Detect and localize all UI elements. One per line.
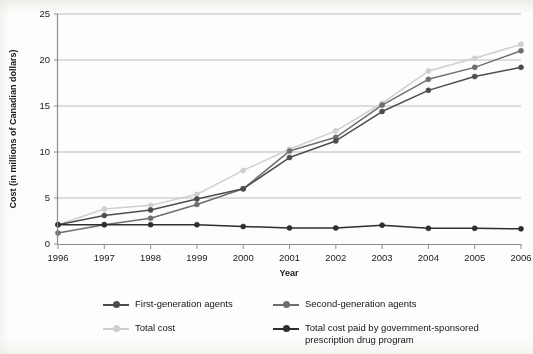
data-point <box>472 65 477 70</box>
data-point <box>241 224 246 229</box>
data-point <box>426 226 431 231</box>
data-point <box>426 88 431 93</box>
data-point <box>148 203 153 208</box>
y-tick-label: 20 <box>39 54 50 65</box>
data-point <box>194 222 199 227</box>
chart-figure: 0510152025 19961997199819992000200120022… <box>0 0 533 354</box>
data-point <box>333 128 338 133</box>
data-point <box>194 192 199 197</box>
y-tick-label: 5 <box>45 192 50 203</box>
x-tick-label: 1996 <box>47 252 68 263</box>
legend-item[interactable]: Total cost paid by government-sponsored … <box>273 322 479 345</box>
data-point <box>287 225 292 230</box>
x-tick-label: 2004 <box>418 252 439 263</box>
data-point <box>426 77 431 82</box>
data-point <box>380 103 385 108</box>
x-tick-label: 1999 <box>186 252 207 263</box>
data-point <box>102 222 107 227</box>
data-point <box>102 207 107 212</box>
data-point <box>472 56 477 61</box>
y-tick-label: 25 <box>39 8 50 19</box>
legend-label: Total cost <box>135 322 175 334</box>
y-tick-label: 10 <box>39 146 50 157</box>
data-point <box>519 42 524 47</box>
y-axis-title: Cost (in millions of Canadian dollars) <box>8 49 18 208</box>
x-tick-label: 1998 <box>140 252 161 263</box>
legend-swatch-icon <box>273 323 299 335</box>
chart-legend: First-generation agentsSecond-generation… <box>0 291 533 354</box>
legend-swatch-icon <box>273 299 299 311</box>
x-axis-title: Year <box>279 268 299 278</box>
data-point <box>241 186 246 191</box>
y-tick-label: 0 <box>45 238 50 249</box>
series-0 <box>56 65 524 227</box>
data-point <box>102 213 107 218</box>
data-point <box>194 196 199 201</box>
data-point <box>472 74 477 79</box>
legend-item[interactable]: Total cost <box>103 322 175 335</box>
legend-swatch-icon <box>103 299 129 311</box>
series-3 <box>56 222 524 231</box>
data-point <box>333 225 338 230</box>
y-tick-label: 15 <box>39 100 50 111</box>
data-point <box>519 65 524 70</box>
x-tick-label: 2001 <box>279 252 300 263</box>
x-tick-label: 2000 <box>233 252 254 263</box>
data-point <box>426 69 431 74</box>
y-axis-ticks: 0510152025 <box>39 8 58 249</box>
plot-area: 0510152025 19961997199819992000200120022… <box>0 0 533 290</box>
data-point <box>472 226 477 231</box>
data-point <box>194 202 199 207</box>
series-line <box>58 67 521 224</box>
data-point <box>519 48 524 53</box>
data-point <box>287 155 292 160</box>
legend-item[interactable]: Second-generation agents <box>273 298 416 311</box>
x-tick-label: 1997 <box>94 252 115 263</box>
data-point <box>380 109 385 114</box>
legend-label: Second-generation agents <box>305 298 416 310</box>
data-point <box>241 168 246 173</box>
data-point <box>148 216 153 221</box>
legend-item[interactable]: First-generation agents <box>103 298 233 311</box>
line-chart-svg: 0510152025 19961997199819992000200120022… <box>0 0 533 290</box>
data-point <box>380 223 385 228</box>
data-point <box>519 226 524 231</box>
x-tick-label: 2005 <box>464 252 485 263</box>
legend-label: Total cost paid by government-sponsored … <box>305 322 479 345</box>
data-point <box>287 149 292 154</box>
data-point <box>148 207 153 212</box>
series-2 <box>56 42 524 227</box>
x-axis-ticks: 1996199719981999200020012002200320042005… <box>47 244 531 263</box>
x-tick-label: 2002 <box>325 252 346 263</box>
series-line <box>58 51 521 233</box>
data-series-layer <box>56 42 524 236</box>
x-tick-label: 2006 <box>510 252 531 263</box>
data-point <box>148 222 153 227</box>
data-point <box>333 138 338 143</box>
legend-label: First-generation agents <box>135 298 233 310</box>
legend-swatch-icon <box>103 323 129 335</box>
gridlines <box>58 14 521 198</box>
x-tick-label: 2003 <box>372 252 393 263</box>
